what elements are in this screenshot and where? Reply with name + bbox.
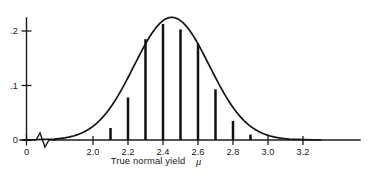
normal-density-curve — [23, 17, 321, 140]
y-tick-label-.2: .2 — [10, 26, 18, 36]
normal-distribution-chart: 0.1.2 02.02.22.42.62.83.03.2 True normal… — [0, 0, 374, 181]
x-axis-title: True normal yield μ — [111, 155, 202, 167]
x-tick-label-0: 0 — [24, 147, 29, 157]
y-axis-tick-labels: 0.1.2 — [10, 26, 18, 145]
x-axis-title-symbol: μ — [195, 156, 201, 167]
x-tick-label-2.0: 2.0 — [86, 147, 99, 157]
x-tick-label-3.2: 3.2 — [296, 147, 309, 157]
x-axis-title-text: True normal yield — [111, 155, 186, 166]
y-tick-label-.1: .1 — [10, 81, 18, 91]
chart-figure: 0.1.2 02.02.22.42.62.83.03.2 True normal… — [0, 0, 374, 181]
y-tick-label-0: 0 — [13, 135, 18, 145]
x-tick-label-2.8: 2.8 — [226, 147, 239, 157]
posterior-spikes — [111, 24, 251, 140]
x-tick-label-3.0: 3.0 — [261, 147, 274, 157]
